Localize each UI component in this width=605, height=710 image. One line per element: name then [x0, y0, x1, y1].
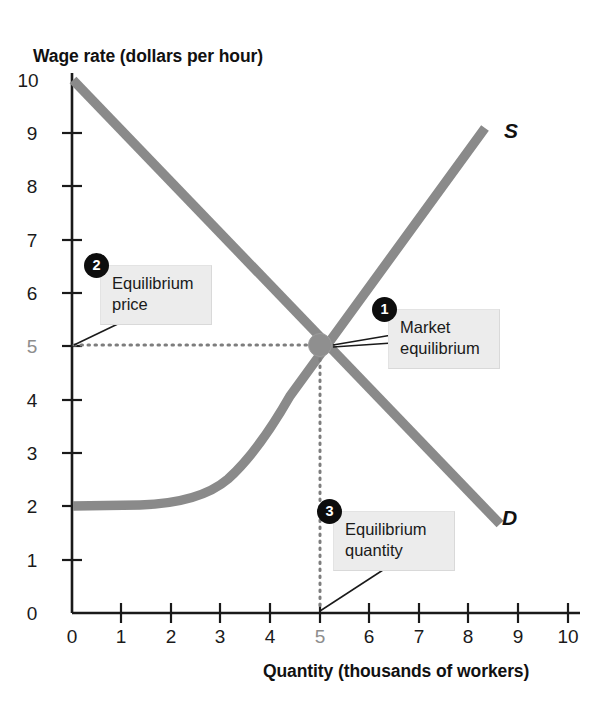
y-tick-label-10: 10	[8, 71, 48, 91]
callout-2-line2: price	[112, 294, 202, 315]
x-tick-label-6: 6	[349, 627, 389, 647]
callout-3-line2: quantity	[345, 540, 445, 561]
x-tick-label-1: 1	[101, 627, 141, 647]
equilibrium-point	[309, 334, 332, 357]
callout-2-box: Equilibrium price	[100, 265, 212, 325]
y-tick-label-8: 8	[12, 177, 52, 197]
callout-1-badge: 1	[372, 297, 397, 322]
x-tick-label-4: 4	[250, 627, 290, 647]
callout-1-line1: Market	[400, 317, 490, 338]
x-tick-label-10: 10	[548, 627, 588, 647]
x-tick-label-8: 8	[448, 627, 488, 647]
y-tick-label-3: 3	[12, 444, 52, 464]
y-tick-label-0: 0	[12, 604, 52, 624]
callout-3-leader	[320, 570, 383, 611]
y-tick-label-6: 6	[12, 284, 52, 304]
callout-3-line1: Equilibrium	[345, 519, 445, 540]
y-tick-label-7: 7	[12, 231, 52, 251]
x-tick-label-7: 7	[399, 627, 439, 647]
x-tick-label-0: 0	[52, 627, 92, 647]
demand-curve-label: D	[502, 506, 517, 530]
x-tick-label-9: 9	[498, 627, 538, 647]
y-tick-label-2: 2	[12, 497, 52, 517]
callout-1-box: Market equilibrium	[388, 309, 500, 369]
callout-3-badge: 3	[317, 499, 342, 524]
callout-3-box: Equilibrium quantity	[333, 511, 455, 571]
supply-demand-plot	[0, 0, 605, 710]
y-tick-label-9: 9	[12, 124, 52, 144]
supply-curve-label: S	[504, 119, 518, 143]
x-tick-label-3: 3	[200, 627, 240, 647]
callout-2-line1: Equilibrium	[112, 273, 202, 294]
x-tick-label-2: 2	[151, 627, 191, 647]
x-tick-label-5: 5	[300, 627, 340, 647]
y-tick-label-1: 1	[12, 551, 52, 571]
figure-canvas: Wage rate (dollars per hour) Quantity (t…	[0, 0, 605, 710]
y-tick-label-5: 5	[12, 337, 52, 357]
callout-2-badge: 2	[84, 253, 109, 278]
callout-1-line2: equilibrium	[400, 338, 490, 359]
y-tick-label-4: 4	[12, 391, 52, 411]
